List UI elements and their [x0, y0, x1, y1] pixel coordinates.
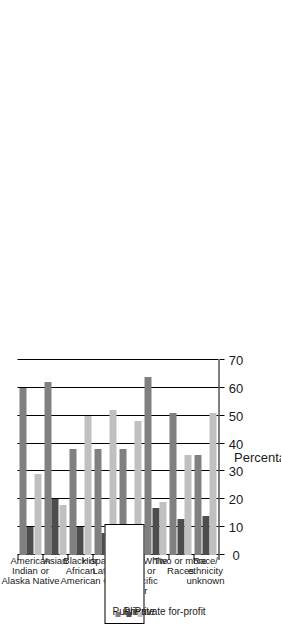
axis-tick-label: 10 [221, 521, 251, 534]
bar-private-for-profit [34, 474, 41, 555]
axis-tick-label: 60 [221, 381, 251, 394]
bar-private-for-profit [59, 505, 66, 555]
bar-group [194, 360, 216, 555]
category-axis-line [218, 360, 219, 555]
axis-tick-label: 40 [221, 437, 251, 450]
bar-private-for-profit [184, 455, 191, 555]
bar-public [94, 449, 101, 555]
bar-public [144, 377, 151, 555]
bar-group [44, 360, 66, 555]
bar-public [44, 382, 51, 555]
chart-figure: 010203040506070 Percentage AmericanIndia… [0, 0, 281, 638]
bar-group [169, 360, 191, 555]
bar-public [194, 455, 201, 555]
category-label: unknown [165, 576, 245, 586]
bar-private [51, 499, 58, 555]
y-axis-title: Percentage [234, 450, 282, 465]
bar-group [144, 360, 166, 555]
bar-public [69, 449, 76, 555]
bar-private [177, 519, 184, 555]
bar-group [19, 360, 41, 555]
bar-private [26, 527, 33, 555]
bar-public [19, 388, 26, 555]
bar-private [202, 516, 209, 555]
axis-tick-label: 70 [221, 354, 251, 367]
bar-private-for-profit [84, 416, 91, 555]
axis-tick-label: 20 [221, 493, 251, 506]
chart-canvas: 010203040506070 Percentage AmericanIndia… [0, 0, 281, 638]
bar-private-for-profit [209, 413, 216, 555]
legend-label: Private for-profit [134, 607, 205, 617]
bar-public [169, 413, 176, 555]
chart-legend: PublicPrivatePrivate for-profit [104, 524, 144, 624]
axis-tick-label: 30 [221, 465, 251, 478]
bar-private [76, 527, 83, 555]
bar-private [152, 508, 159, 555]
axis-tick-label: 50 [221, 409, 251, 422]
bar-group [69, 360, 91, 555]
bar-private-for-profit [159, 502, 166, 555]
